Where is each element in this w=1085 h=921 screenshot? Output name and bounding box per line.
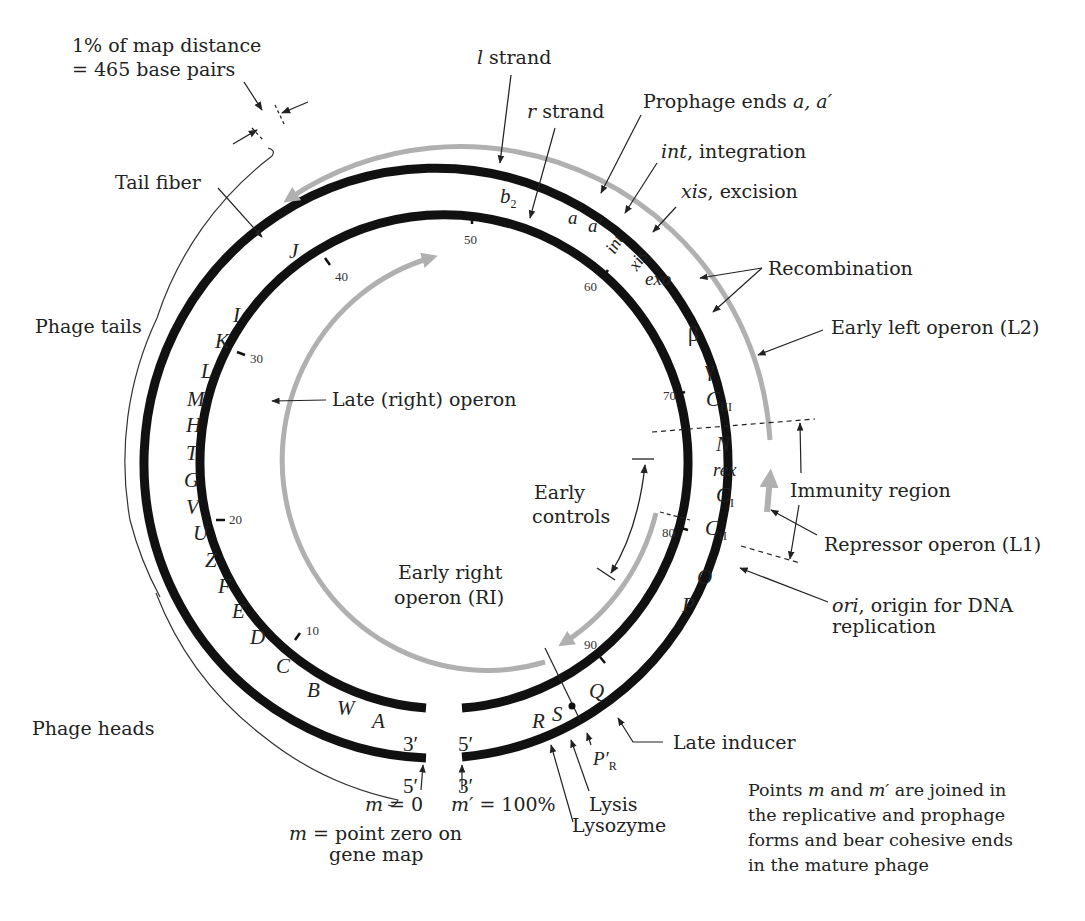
early-right-operon-label-line1: Early right	[398, 561, 502, 583]
tick-label-10: 10	[306, 624, 319, 638]
gene-N: N	[716, 433, 730, 455]
gene-V: V	[186, 496, 199, 518]
gene-C: C	[276, 655, 290, 677]
gene-G: G	[184, 469, 199, 491]
gene-R: R	[532, 710, 545, 732]
lysis-label: Lysis	[589, 793, 638, 815]
ori-pointer	[740, 568, 828, 602]
scale-indicator	[233, 82, 308, 144]
gene-S: S	[552, 703, 563, 725]
repressor-operon-label: Repressor operon (L1)	[824, 533, 1041, 555]
ori-label-line2: replication	[832, 615, 936, 637]
tick-label-80: 80	[662, 526, 675, 540]
early-controls-label-line1: Early	[534, 481, 585, 503]
xis-label: xis, excision	[681, 180, 798, 202]
gene-beta: β	[688, 323, 699, 345]
gene-rex: rex	[713, 459, 737, 481]
lysozyme-label: Lysozyme	[572, 814, 666, 836]
m-zero-pointer	[421, 765, 423, 790]
gene-exo: exo	[645, 268, 671, 290]
gene-H: H	[186, 414, 201, 436]
gene-Z: Z	[205, 549, 217, 571]
late-inducer-label: Late inducer	[673, 731, 796, 753]
r-strand-circle	[200, 215, 688, 708]
outer-left-end: 5′	[403, 775, 418, 797]
late-right-operon-label: Late (right) operon	[332, 388, 517, 410]
ori-label-line1: ori, origin for DNA	[832, 594, 1013, 616]
lysis-pointer	[571, 740, 589, 791]
gene-P: P	[682, 594, 695, 616]
tick-label-20: 20	[229, 513, 242, 527]
l-strand-label: l strand	[477, 46, 551, 68]
gene-cIII: CIII	[706, 388, 732, 418]
scale-note-line2: = 465 base pairs	[72, 58, 235, 80]
gene-O: O	[697, 566, 712, 588]
phage-heads-label: Phage heads	[32, 717, 155, 739]
m-definition-line1: m = point zero on	[289, 822, 462, 844]
int-label: int, integration	[661, 140, 806, 162]
late-inducer-pointer	[618, 718, 663, 742]
recombination-label: Recombination	[768, 257, 913, 279]
repressor-operon-pointer	[771, 510, 817, 535]
early-controls-label-line2: controls	[532, 505, 610, 527]
gene-B: B	[307, 679, 320, 701]
phage-tails-label: Phage tails	[35, 315, 142, 337]
inner-left-end: 3′	[403, 733, 418, 755]
tick-label-60: 60	[584, 280, 597, 294]
tick-label-40: 40	[335, 270, 348, 284]
repressor-operon-arrow	[767, 478, 770, 512]
note-line2: the replicative and prophage	[748, 803, 1013, 828]
r-strand-pointer	[530, 128, 555, 218]
gene-U: U	[193, 522, 208, 544]
early-right-operon-label-line2: operon (RI)	[394, 586, 504, 608]
gene-a-prime: a′	[588, 215, 602, 237]
prophage-ends-label: Prophage ends a, a′	[643, 90, 832, 112]
s-gene-dot	[569, 703, 576, 710]
note-line3: forms and bear cohesive ends	[748, 828, 1013, 853]
scale-note-line1: 1% of map distance	[72, 34, 261, 56]
late-right-operon-arrow	[282, 258, 545, 670]
gene-b2: b2	[500, 185, 517, 215]
note-line4: in the mature phage	[748, 853, 1013, 878]
tick-label-90: 90	[584, 638, 597, 652]
gene-A: A	[372, 710, 385, 732]
m-definition-line2: gene map	[329, 843, 423, 865]
gene-L: L	[201, 360, 213, 382]
gene-gamma: γ	[705, 358, 714, 380]
gene-a: a	[568, 207, 578, 229]
tail-fiber-label: Tail fiber	[115, 171, 201, 193]
gene-M: M	[187, 388, 205, 410]
gene-F: F	[218, 575, 231, 597]
late-right-operon-pointer	[272, 400, 326, 401]
note-line1: Points m and m′ are joined in	[748, 778, 1013, 803]
gene-J: J	[289, 240, 298, 262]
pr-pointer	[587, 733, 591, 745]
early-left-operon-label: Early left operon (L2)	[831, 316, 1039, 338]
cohesive-ends-note: Points m and m′ are joined in the replic…	[748, 778, 1013, 878]
gene-cI: CI	[716, 484, 734, 514]
inner-right-end: 5′	[458, 733, 473, 755]
immunity-region-label: Immunity region	[790, 479, 951, 501]
gene-K: K	[215, 330, 229, 352]
r-strand-label: r strand	[527, 100, 604, 122]
tail-fiber-pointer	[218, 188, 262, 237]
tick-label-50: 50	[464, 233, 477, 247]
gene-I: I	[233, 304, 240, 326]
gene-Q: Q	[589, 680, 604, 702]
gene-D: D	[250, 626, 265, 648]
tick-label-30: 30	[250, 352, 263, 366]
gene-T: T	[186, 442, 198, 464]
outer-right-end: 3′	[458, 775, 473, 797]
gene-cII: CII	[705, 517, 727, 547]
gene-E: E	[232, 600, 245, 622]
tick-label-70: 70	[663, 389, 676, 403]
early-left-operon-pointer	[758, 330, 823, 355]
gene-PR-prime: P′R	[593, 748, 617, 777]
gene-W: W	[337, 697, 355, 719]
prophage-ends-pointer	[601, 115, 641, 193]
